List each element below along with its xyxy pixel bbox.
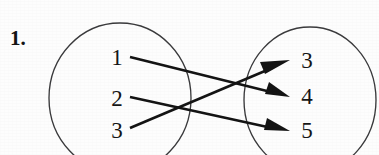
mapping-diagram-figure: 1. 1 2 3 3 4 5 (0, 0, 379, 155)
diagram-canvas (0, 0, 379, 155)
problem-number: 1. (10, 28, 26, 49)
arrowhead-to-4 (265, 82, 290, 97)
codomain-element-4: 4 (297, 85, 317, 108)
domain-element-1: 1 (107, 46, 127, 69)
domain-element-3: 3 (107, 119, 127, 142)
arrowhead-to-3 (260, 60, 290, 74)
domain-element-2: 2 (107, 87, 127, 110)
arrowhead-to-5 (264, 118, 290, 131)
arrow-2-to-5 (130, 97, 290, 131)
codomain-element-5: 5 (297, 119, 317, 142)
codomain-element-3: 3 (297, 49, 317, 72)
